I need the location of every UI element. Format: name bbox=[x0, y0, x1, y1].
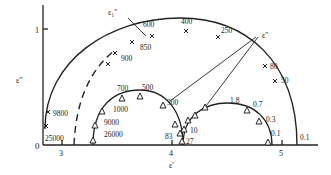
y-axis-label: ε'' bbox=[16, 76, 23, 85]
label-500: 500 bbox=[142, 83, 154, 92]
label-10: 10 bbox=[190, 126, 198, 135]
label-25000: 25000 bbox=[45, 134, 64, 143]
label-850: 850 bbox=[140, 43, 152, 52]
label-26000: 26000 bbox=[104, 130, 123, 139]
label-50: 50 bbox=[281, 76, 289, 85]
label-400: 400 bbox=[181, 17, 193, 26]
cole-cole-plot: 1 0 3 4 5 ε'' ε' bbox=[0, 0, 331, 175]
x-axis-label: ε' bbox=[169, 161, 174, 170]
label-900: 900 bbox=[121, 54, 133, 63]
label-83: 83 bbox=[165, 132, 173, 141]
label-9800: 9800 bbox=[53, 109, 68, 118]
x-tick-label-5: 5 bbox=[279, 149, 283, 158]
eps1-label: ε₁'' bbox=[108, 8, 118, 17]
label-9000: 9000 bbox=[104, 118, 119, 127]
label-0.7: 0.7 bbox=[253, 100, 263, 109]
label-700: 700 bbox=[117, 84, 129, 93]
eps2-label: ε'' bbox=[262, 31, 269, 40]
label-0.1-outer: 0.1 bbox=[300, 133, 310, 142]
x-tick-label-3: 3 bbox=[59, 149, 63, 158]
label-0.1-inner: 0.1 bbox=[271, 129, 281, 138]
y-tick-label-1: 1 bbox=[35, 26, 39, 35]
label-0.3: 0.3 bbox=[266, 115, 276, 124]
label-600: 600 bbox=[143, 20, 155, 29]
label-250: 250 bbox=[221, 26, 233, 35]
label-300: 300 bbox=[167, 98, 179, 107]
x-tick-label-4: 4 bbox=[169, 149, 173, 158]
outer-arc bbox=[45, 18, 297, 145]
label-1.8: 1.8 bbox=[230, 96, 240, 105]
label-1000: 1000 bbox=[113, 105, 128, 114]
label-27: 27 bbox=[186, 137, 194, 146]
x-markers bbox=[44, 29, 277, 145]
label-80: 80 bbox=[270, 62, 278, 71]
origin-label: 0 bbox=[35, 141, 40, 151]
